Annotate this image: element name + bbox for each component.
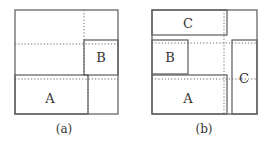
panel-a-label-b: B [96, 50, 106, 65]
packing-diagram: B A (a) C B A C (b) [0, 0, 272, 143]
panel-a-caption: (a) [56, 122, 73, 136]
panel-a: B A (a) [15, 10, 118, 136]
panel-a-label-a: A [44, 91, 55, 106]
panel-b: C B A C (b) [152, 10, 257, 136]
panel-b-label-a: A [182, 91, 193, 106]
panel-b-caption: (b) [195, 122, 212, 136]
panel-b-label-b: B [165, 50, 175, 65]
panel-b-label-c-right: C [239, 71, 249, 86]
panel-b-label-c-top: C [183, 16, 193, 31]
